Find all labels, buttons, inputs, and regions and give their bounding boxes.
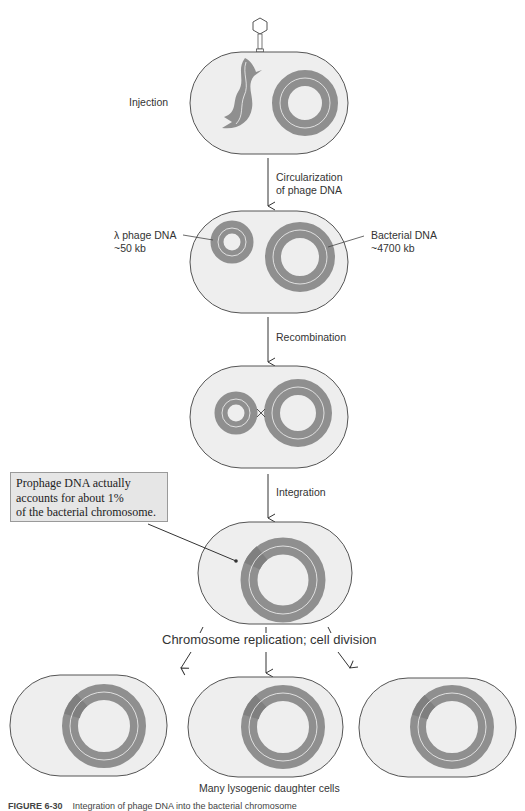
label-daughter-cells: Many lysogenic daughter cells [199,782,340,795]
figure-number: FIGURE 6-30 [8,801,63,811]
figure-caption-text: Integration of phage DNA into the bacter… [73,801,297,811]
label-circularization-line1: Circularization [276,171,343,184]
label-recombination: Recombination [276,331,346,344]
cell-injection [190,52,348,154]
cell-integrated [148,522,352,624]
callout-line-3: of the bacterial chromosome. [16,505,162,520]
figure-caption: FIGURE 6-30Integration of phage DNA into… [8,801,297,811]
daughter-cell-3 [359,678,516,777]
label-phage-dna-size: ~50 kb [114,242,146,255]
daughter-cell-2 [188,677,343,777]
daughter-cell-1 [10,675,167,776]
label-replication-division: Chromosome replication; cell division [162,633,377,646]
label-integration: Integration [276,486,326,499]
label-circularization-line2: of phage DNA [276,184,342,197]
phage-particle-icon [253,18,267,52]
cell-circularization [183,211,364,313]
label-bacterial-dna-size: ~4700 kb [371,242,415,255]
callout-line-1: Prophage DNA actually [16,476,162,491]
cell-recombination [190,366,348,468]
prophage-callout: Prophage DNA actually accounts for about… [10,472,168,522]
label-phage-dna: λ phage DNA [114,229,176,242]
label-injection: Injection [129,96,168,109]
label-bacterial-dna: Bacterial DNA [371,229,437,242]
callout-line-2: accounts for about 1% [16,491,162,506]
